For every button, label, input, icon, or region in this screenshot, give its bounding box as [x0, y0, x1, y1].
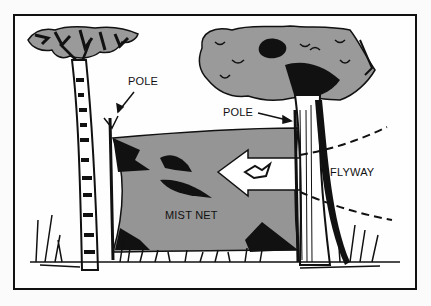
pole-label-right: POLE: [223, 106, 253, 118]
left-tree-foliage: [28, 27, 138, 62]
left-birch-trunk: [72, 60, 98, 270]
flyway-label: FLYWAY: [330, 166, 374, 178]
pole-label-left: POLE: [128, 75, 158, 87]
right-tree-foliage: [200, 26, 375, 100]
right-oak-trunk: [295, 95, 350, 265]
mist-net-illustration: [0, 0, 431, 306]
mist-net-label: MIST NET: [165, 209, 218, 221]
